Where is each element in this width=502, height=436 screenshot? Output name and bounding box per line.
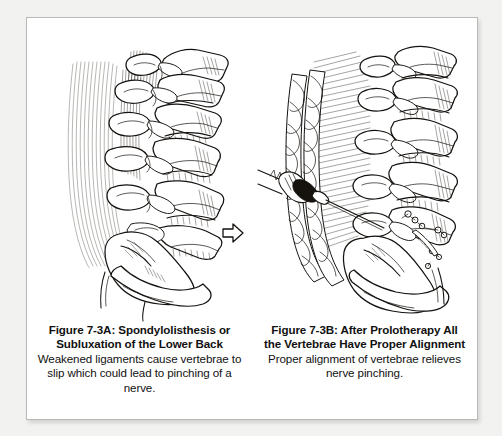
lumbar-spine-misaligned-lateral-view (27, 18, 252, 323)
caption-b-body: Proper alignment of vertebrae relieves n… (262, 352, 467, 381)
panel-a-illustration (27, 18, 252, 323)
vertebra-l4 (353, 162, 457, 211)
caption-row: Figure 7-3A: Spondylolisthesis or Sublux… (27, 323, 477, 419)
vertebra-l1 (360, 46, 456, 79)
caption-panel-a: Figure 7-3A: Spondylolisthesis or Sublux… (27, 323, 252, 419)
lumbar-spine-aligned-lateral-view-with-injection (252, 18, 477, 323)
caption-b-title: Figure 7-3B: After Prolotherapy All the … (262, 323, 467, 352)
vertebra-l2 (358, 78, 457, 121)
vertebra-l3 (109, 104, 221, 143)
caption-a-title: Figure 7-3A: Spondylolisthesis or Sublux… (37, 323, 242, 352)
slippage-arrow-icon (223, 224, 243, 242)
vertebra-l5-slipped (107, 181, 224, 227)
panel-b-illustration (252, 18, 477, 323)
vertebra-l4 (105, 138, 220, 183)
vertebra-l3 (355, 118, 457, 165)
illustration-row (27, 18, 477, 323)
caption-a-body: Weakened ligaments cause vertebrae to sl… (37, 352, 242, 396)
caption-panel-b: Figure 7-3B: After Prolotherapy All the … (252, 323, 477, 419)
figure-frame: Figure 7-3A: Spondylolisthesis or Sublux… (26, 17, 478, 420)
